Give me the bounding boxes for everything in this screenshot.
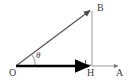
right-angle-marker — [86, 60, 92, 65]
vertex-label-A: A — [116, 68, 123, 78]
segment-OB-vector — [17, 11, 91, 66]
angle-arc-theta — [31, 54, 35, 66]
geometry-diagram: O H B A θ — [0, 0, 137, 81]
vertex-label-H: H — [87, 68, 94, 78]
angle-label-theta: θ — [36, 51, 40, 60]
vertex-label-B: B — [97, 3, 104, 13]
vertex-label-O: O — [9, 68, 16, 78]
